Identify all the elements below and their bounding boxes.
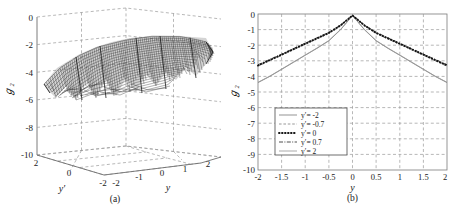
- panel-b-xtick-1: -1.5: [275, 172, 288, 182]
- panel-b-line-plot: y′= -2 y′= -0.7 y′= 0 y′= 0.7 y′= 2 0 -1…: [231, 0, 462, 206]
- panel-a-y-axis-label: y: [165, 182, 171, 193]
- panel-a-ztick-0: 0: [29, 13, 34, 23]
- panel-a-ztick-2: -4: [26, 68, 34, 78]
- panel-b-ytick-6: -6: [248, 103, 256, 113]
- panel-b-label: (b): [347, 193, 358, 204]
- panel-b-ytick-8: -8: [248, 134, 256, 144]
- panel-a-ztick-5: -10: [21, 150, 33, 160]
- panel-a-surface-plot: 0 -2 -4 -6 -8 -10 ℊ₂ 2 0 -2 y′ -2 -1 0 1: [0, 0, 231, 206]
- panel-b-ytick-2: -2: [248, 41, 256, 51]
- panel-b-xtick-3: -0.5: [322, 172, 335, 182]
- panel-b-ytick-7: -7: [248, 119, 256, 129]
- panel-a-yprime-axis-label: y′: [58, 183, 66, 194]
- panel-b-xtick-2: -1: [302, 172, 309, 182]
- panel-a-mesh-surface: [44, 36, 214, 100]
- panel-b-legend-label-4: y′= 2: [301, 147, 316, 156]
- figure-container: 0 -2 -4 -6 -8 -10 ℊ₂ 2 0 -2 y′ -2 -1 0 1: [0, 0, 462, 206]
- panel-b-xtick-6: 1: [398, 172, 402, 182]
- panel-b-ytick-1: -1: [248, 25, 256, 35]
- panel-a-z-axis-label: ℊ₂: [3, 83, 15, 97]
- panel-a-ztick-3: -6: [26, 95, 34, 105]
- panel-a-ytick-4: 2: [206, 159, 211, 169]
- panel-a-z-tick-labels: 0 -2 -4 -6 -8 -10: [21, 13, 34, 161]
- panel-a-yptick-1: 0: [67, 168, 72, 178]
- panel-b-ytick-9: -9: [248, 150, 256, 160]
- panel-a-yptick-2: -2: [99, 178, 107, 188]
- panel-b-xtick-5: 0.5: [371, 172, 382, 182]
- panel-b-y-tick-labels: 0 -1 -2 -3 -4 -5 -6 -7 -8 -9 -10: [243, 10, 256, 176]
- panel-b-ytick-0: 0: [251, 10, 256, 20]
- panel-b-legend-label-1: y′= -0.7: [301, 120, 325, 129]
- panel-b-y-axis-label: ℊ₂: [231, 85, 240, 99]
- panel-a-floor-grid: [37, 146, 221, 175]
- panel-b-legend-label-3: y′= 0.7: [301, 138, 322, 147]
- panel-a-ytick-0: -2: [112, 178, 120, 188]
- panel-b-xtick-4: 0: [350, 172, 354, 182]
- panel-a-ztick-4: -8: [26, 123, 34, 133]
- panel-a-floor-edges: [37, 155, 221, 175]
- panel-b-legend-label-0: y′= -2: [301, 111, 319, 120]
- panel-b-x-axis-label: y: [349, 182, 355, 193]
- panel-b-legend-label-2: y′= 0: [301, 129, 316, 138]
- panel-b-ytick-4: -4: [248, 72, 256, 82]
- panel-a-svg: 0 -2 -4 -6 -8 -10 ℊ₂ 2 0 -2 y′ -2 -1 0 1: [0, 0, 231, 206]
- panel-a-ytick-3: 1: [183, 164, 188, 174]
- panel-b-xtick-0: -2: [254, 172, 261, 182]
- panel-a-yptick-0: 2: [34, 158, 39, 168]
- panel-b-ytick-5: -5: [248, 88, 256, 98]
- panel-b-x-tick-labels: -2 -1.5 -1 -0.5 0 0.5 1 1.5 2: [254, 172, 447, 182]
- panel-b-xtick-8: 2: [443, 172, 447, 182]
- panel-b-ytick-3: -3: [248, 56, 256, 66]
- panel-a-label: (a): [110, 194, 121, 205]
- panel-a-ztick-1: -2: [26, 40, 34, 50]
- panel-a-ytick-1: -1: [135, 172, 143, 182]
- panel-b-xtick-7: 1.5: [418, 172, 429, 182]
- panel-b-svg: y′= -2 y′= -0.7 y′= 0 y′= 0.7 y′= 2 0 -1…: [231, 0, 462, 206]
- panel-b-legend[interactable]: y′= -2 y′= -0.7 y′= 0 y′= 0.7 y′= 2: [275, 108, 347, 156]
- panel-a-ytick-2: 0: [160, 168, 165, 178]
